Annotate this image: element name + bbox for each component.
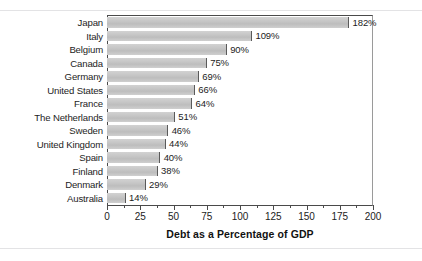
bar-value-label: 51%: [178, 110, 197, 124]
bar: [107, 179, 146, 190]
axis-tick-minor: [257, 205, 258, 208]
bar-row: 64%: [107, 97, 373, 111]
category-label: Finland: [0, 165, 103, 179]
bar-value-label: 14%: [129, 191, 148, 205]
bar-row: 29%: [107, 178, 373, 192]
category-label: United States: [0, 84, 103, 98]
axis-tick-major: [240, 205, 241, 210]
bar: [107, 152, 160, 163]
axis-tick-major: [140, 205, 141, 210]
axis-tick-label: 150: [298, 211, 315, 222]
category-label: The Netherlands: [0, 111, 103, 125]
bar-row: 109%: [107, 30, 373, 44]
bar-value-label: 69%: [202, 70, 221, 84]
axis-tick-label: 175: [331, 211, 348, 222]
bar: [107, 31, 252, 42]
axis-tick-label: 200: [365, 211, 382, 222]
category-label: Japan: [0, 16, 103, 30]
axis-tick-minor: [356, 205, 357, 208]
bar-value-label: 29%: [149, 178, 168, 192]
category-label: United Kingdom: [0, 138, 103, 152]
bar-row: 75%: [107, 57, 373, 71]
axis-tick-minor: [124, 205, 125, 208]
bar-row: 69%: [107, 70, 373, 84]
bar: [107, 44, 227, 55]
bar-row: 40%: [107, 151, 373, 165]
bar: [107, 166, 158, 177]
category-axis-labels: JapanItalyBelgiumCanadaGermanyUnited Sta…: [0, 16, 103, 205]
bar: [107, 71, 199, 82]
x-axis-tick-labels: 0255075100125150175200: [107, 211, 373, 225]
top-divider: [0, 10, 422, 11]
axis-tick-major: [174, 205, 175, 210]
bar-value-label: 46%: [172, 124, 191, 138]
axis-tick-label: 100: [232, 211, 249, 222]
category-label: Sweden: [0, 124, 103, 138]
axis-tick-minor: [323, 205, 324, 208]
category-label: Spain: [0, 151, 103, 165]
axis-tick-major: [207, 205, 208, 210]
axis-tick-label: 50: [168, 211, 179, 222]
bottom-divider: [0, 248, 422, 249]
category-label: Canada: [0, 57, 103, 71]
bar-value-label: 109%: [255, 29, 279, 43]
bar-value-label: 44%: [169, 137, 188, 151]
bar-row: 14%: [107, 192, 373, 206]
category-label: Germany: [0, 70, 103, 84]
bar-chart-figure: JapanItalyBelgiumCanadaGermanyUnited Sta…: [0, 0, 422, 261]
category-label: Belgium: [0, 43, 103, 57]
bar: [107, 112, 175, 123]
axis-tick-minor: [157, 205, 158, 208]
axis-tick-minor: [290, 205, 291, 208]
bar: [107, 139, 166, 150]
bar-value-label: 40%: [164, 151, 183, 165]
bar: [107, 58, 207, 69]
bar-row: 44%: [107, 138, 373, 152]
bar-row: 90%: [107, 43, 373, 57]
bar-value-label: 182%: [353, 16, 377, 30]
axis-tick-major: [340, 205, 341, 210]
axis-tick-label: 125: [265, 211, 282, 222]
axis-tick-label: 25: [135, 211, 146, 222]
bar: [107, 193, 126, 204]
bar-value-label: 90%: [230, 43, 249, 57]
bar-value-label: 38%: [161, 164, 180, 178]
axis-tick-major: [307, 205, 308, 210]
category-label: Denmark: [0, 178, 103, 192]
category-label: France: [0, 97, 103, 111]
bar-series: 182%109%90%75%69%66%64%51%46%44%40%38%29…: [107, 16, 373, 205]
bar-row: 51%: [107, 111, 373, 125]
axis-tick-major: [373, 205, 374, 210]
bar-row: 66%: [107, 84, 373, 98]
bar-row: 38%: [107, 165, 373, 179]
bar-row: 182%: [107, 16, 373, 30]
bar: [107, 17, 349, 28]
category-label: Italy: [0, 30, 103, 44]
bar: [107, 98, 192, 109]
axis-tick-major: [107, 205, 108, 210]
bar-value-label: 75%: [210, 56, 229, 70]
axis-tick-minor: [223, 205, 224, 208]
x-axis-title: Debt as a Percentage of GDP: [107, 228, 373, 240]
bar-row: 46%: [107, 124, 373, 138]
axis-tick-label: 75: [201, 211, 212, 222]
bar-value-label: 64%: [196, 97, 215, 111]
bar: [107, 85, 195, 96]
bar-value-label: 66%: [198, 83, 217, 97]
axis-tick-minor: [190, 205, 191, 208]
bar: [107, 125, 168, 136]
axis-tick-major: [273, 205, 274, 210]
category-label: Australia: [0, 192, 103, 206]
axis-tick-label: 0: [104, 211, 110, 222]
